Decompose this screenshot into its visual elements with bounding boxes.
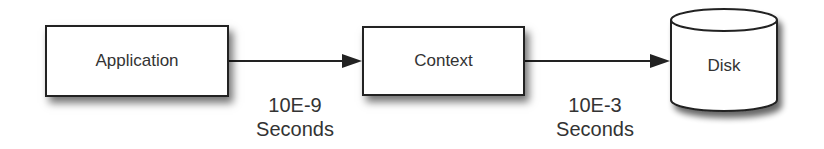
application-node: Application [45, 25, 229, 97]
edge-label-context-disk: 10E-3 Seconds [540, 93, 650, 141]
application-label: Application [95, 51, 178, 71]
edge-label-app-context: 10E-9 Seconds [240, 93, 350, 141]
disk-label-text: Disk [707, 56, 740, 75]
edge-label-unit: Seconds [240, 117, 350, 141]
latency-diagram: Application Context Disk 10E-9 Seconds 1… [0, 0, 824, 149]
arrow-application-to-context [228, 54, 362, 68]
edge-label-value: 10E-3 [540, 93, 650, 117]
arrow-context-to-disk [524, 54, 670, 68]
context-label: Context [414, 51, 473, 71]
edge-label-unit: Seconds [540, 117, 650, 141]
edge-label-value: 10E-9 [240, 93, 350, 117]
context-node: Context [362, 26, 525, 96]
disk-label: Disk [671, 56, 777, 76]
